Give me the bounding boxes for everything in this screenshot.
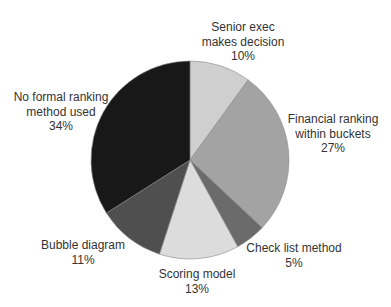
label-percent: 13%: [159, 282, 236, 297]
label-percent: 11%: [41, 253, 125, 268]
label-line: Bubble diagram: [41, 238, 125, 253]
label-line: Check list method: [246, 241, 341, 256]
label-senior-exec: Senior exec makes decision 10%: [202, 20, 285, 64]
pie-slices: [91, 61, 289, 259]
label-line: makes decision: [202, 35, 285, 50]
label-percent: 34%: [14, 119, 109, 134]
label-line: method used: [14, 105, 109, 120]
label-line: Financial ranking: [288, 112, 379, 127]
label-scoring-model: Scoring model 13%: [159, 267, 236, 296]
label-line: No formal ranking: [14, 90, 109, 105]
label-check-list: Check list method 5%: [246, 241, 341, 270]
label-line: Scoring model: [159, 267, 236, 282]
label-line: Senior exec: [202, 20, 285, 35]
label-line: within buckets: [288, 127, 379, 142]
label-no-formal-ranking: No formal ranking method used 34%: [14, 90, 109, 134]
label-percent: 27%: [288, 141, 379, 156]
label-percent: 10%: [202, 49, 285, 64]
label-financial-ranking: Financial ranking within buckets 27%: [288, 112, 379, 156]
label-percent: 5%: [246, 256, 341, 271]
label-bubble-diagram: Bubble diagram 11%: [41, 238, 125, 267]
